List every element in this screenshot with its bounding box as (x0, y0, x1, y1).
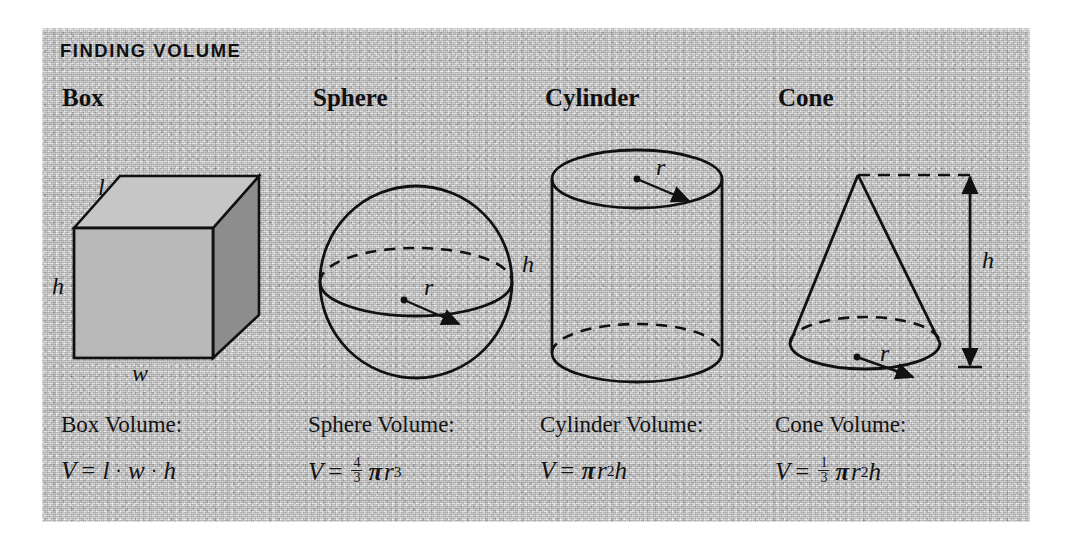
formula-cone-exponent: 2 (861, 463, 869, 481)
formula-cone-fraction: 1 3 (818, 456, 829, 486)
heading-sphere: Sphere (313, 84, 388, 112)
formula-cone-pi: π (835, 458, 849, 486)
formula-cone-denominator: 3 (818, 470, 829, 485)
box-label-w: w (132, 360, 148, 387)
sphere-radius-arrow (404, 300, 459, 324)
formula-box-term-h: h (163, 457, 176, 485)
heading-box: Box (62, 84, 104, 112)
formula-box: V = l · w · h (61, 457, 176, 485)
formula-sphere-numerator: 4 (351, 456, 362, 470)
cylinder-figure: h r (548, 147, 748, 387)
cone-label-r: r (880, 340, 889, 367)
box-label-l: l (98, 174, 105, 201)
cone-figure: h r (782, 165, 992, 385)
formula-sphere-equals: = (328, 458, 342, 486)
formula-sphere-pi: π (368, 458, 382, 486)
cone-base-front-arc (790, 343, 940, 369)
formula-cylinder-trailing: h (615, 457, 628, 485)
cone-right-slant (858, 175, 940, 343)
caption-cone: Cone Volume: (775, 412, 906, 438)
formula-sphere-lhs: V (308, 458, 323, 486)
box-front-face (74, 228, 213, 358)
formula-cone-equals: = (795, 458, 809, 486)
cone-label-h: h (982, 247, 994, 274)
formula-box-lhs: V (61, 457, 76, 485)
formula-cone-trailing: h (869, 458, 882, 486)
figure-page: FINDING VOLUME Box Sphere Cylinder Cone … (0, 0, 1085, 551)
formula-sphere-variable: r (384, 458, 394, 486)
sphere-figure: r (316, 182, 516, 382)
page-title: FINDING VOLUME (60, 40, 241, 62)
formula-cylinder-equals: = (560, 457, 574, 485)
formula-sphere-exponent: 3 (394, 463, 402, 481)
formula-cylinder-lhs: V (540, 457, 555, 485)
formula-cylinder-variable: r (597, 457, 607, 485)
cylinder-label-r: r (656, 154, 665, 181)
formula-cone-numerator: 1 (818, 456, 829, 470)
cylinder-label-h: h (522, 251, 534, 278)
formula-cone-lhs: V (775, 458, 790, 486)
formula-box-term-l: l (102, 457, 109, 485)
sphere-equator-front (320, 282, 512, 316)
heading-cone: Cone (778, 84, 834, 112)
cylinder-svg (548, 147, 748, 387)
formula-sphere-fraction: 4 3 (351, 456, 362, 486)
formula-sphere-denominator: 3 (351, 470, 362, 485)
sphere-svg (316, 182, 516, 382)
sphere-equator-back (320, 248, 512, 282)
formula-cylinder-pi: π (581, 457, 595, 485)
caption-box: Box Volume: (61, 412, 182, 438)
box-label-h: h (52, 273, 64, 300)
sphere-label-r: r (424, 274, 433, 301)
formula-box-term-w: w (128, 457, 145, 485)
formula-cylinder-exponent: 2 (607, 462, 615, 480)
formula-cylinder: V = π r 2 h (540, 457, 627, 485)
cylinder-bottom-back-arc (552, 324, 722, 353)
formula-box-dot-1: · (115, 460, 122, 483)
caption-cylinder: Cylinder Volume: (540, 412, 703, 438)
box-figure: l h w (70, 168, 295, 378)
caption-sphere: Sphere Volume: (308, 412, 455, 438)
cylinder-radius-arrow (637, 179, 689, 201)
sphere-outline (320, 186, 512, 378)
cylinder-bottom-front-arc (552, 353, 722, 382)
formula-cone: V = 1 3 π r 2 h (775, 457, 881, 487)
heading-cylinder: Cylinder (545, 84, 639, 112)
formula-box-equals: = (81, 457, 95, 485)
formula-box-dot-2: · (151, 460, 158, 483)
formula-sphere: V = 4 3 π r 3 (308, 457, 402, 487)
formula-cone-variable: r (851, 458, 861, 486)
cone-base-back-arc (790, 317, 940, 343)
